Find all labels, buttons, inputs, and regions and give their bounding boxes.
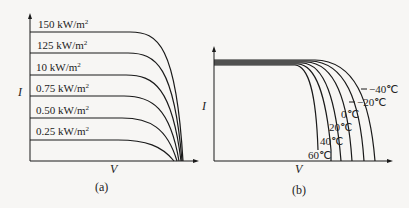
x-axis-arrow-icon (387, 159, 393, 163)
label-125: 125 kW/m2 (37, 39, 88, 51)
label-40c: 40℃ (320, 135, 343, 147)
y-axis-label: I (17, 85, 23, 99)
label-60c: 60℃ (308, 149, 331, 161)
x-axis-label: V (110, 162, 119, 176)
label-050: 0.50 kW/m2 (36, 104, 90, 116)
curve-40c (214, 64, 331, 161)
label-20c: 20℃ (329, 121, 352, 133)
label-m20c: −20℃ (357, 96, 386, 108)
label-m40c: −40℃ (369, 83, 398, 95)
curve-025 (30, 140, 174, 161)
y-axis-arrow-icon (212, 46, 216, 52)
caption-b: (b) (292, 183, 306, 197)
panel-a-chart: 150 kW/m2 125 kW/m2 10 kW/m2 0.75 kW/m2 … (17, 13, 199, 194)
label-10: 10 kW/m2 (36, 61, 81, 73)
curve-60c (214, 65, 318, 150)
y-axis-arrow-icon (28, 13, 32, 19)
label-0c: 0℃ (341, 108, 359, 120)
x-axis-label: V (295, 162, 304, 176)
y-axis-label: I (201, 99, 207, 113)
label-075: 0.75 kW/m2 (36, 82, 90, 94)
caption-a: (a) (95, 180, 108, 194)
panel-b-chart: −40℃ −20℃ 0℃ 20℃ 40℃ 60℃ I V (b) (201, 46, 398, 197)
label-025: 0.25 kW/m2 (36, 125, 90, 137)
label-150: 150 kW/m2 (38, 18, 89, 30)
figure: 150 kW/m2 125 kW/m2 10 kW/m2 0.75 kW/m2 … (0, 0, 409, 208)
x-axis-arrow-icon (193, 159, 199, 163)
